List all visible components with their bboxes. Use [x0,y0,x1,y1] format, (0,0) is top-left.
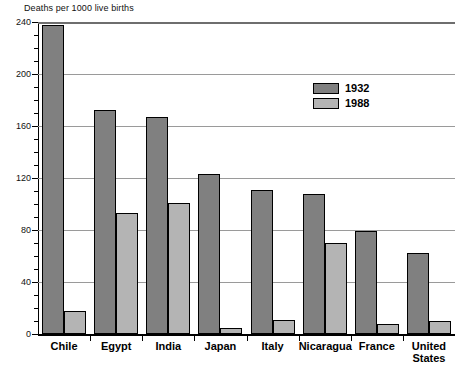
bar-1932 [198,174,220,334]
x-axis-category-label: India [142,340,194,352]
x-axis-category-label: Nicaragua [299,340,351,352]
bar-1988 [325,243,347,334]
bar-group [299,22,351,334]
bar-group [351,22,403,334]
x-axis-category-label: Chile [38,340,90,352]
bar-1988 [220,328,242,335]
bar-1988 [116,213,138,334]
x-axis-category-label: Japan [194,340,246,352]
x-axis-category-label: France [351,340,403,352]
bar-1932 [303,194,325,334]
bar-group [194,22,246,334]
y-axis-major-tick [32,334,38,335]
x-axis-category-label: Egypt [90,340,142,352]
y-axis-tick-label: 40 [3,278,31,287]
bar-group [90,22,142,334]
bar-group [38,22,90,334]
y-axis-tick-label: 200 [3,70,31,79]
legend: 1932 1988 [313,82,369,112]
legend-item-1988: 1988 [313,97,369,110]
bar-1932 [355,231,377,334]
bar-group [247,22,299,334]
y-axis-labels: 240 200 160 120 80 40 0 [0,0,31,371]
bar-group [142,22,194,334]
legend-item-1932: 1932 [313,82,369,95]
bar-1932 [407,253,429,334]
bar-1988 [64,311,86,334]
bar-1932 [94,110,116,334]
bar-1988 [377,324,399,334]
x-axis-category-label: Italy [247,340,299,352]
legend-item-label: 1988 [345,98,369,109]
chart-title: Deaths per 1000 live births [24,3,134,13]
bar-1988 [273,320,295,334]
legend-swatch-icon [313,98,339,109]
bar-1932 [146,117,168,334]
plot-area [38,22,455,334]
legend-item-label: 1932 [345,83,369,94]
bar-1988 [429,321,451,334]
x-axis-category-label: United States [403,340,455,364]
bar-chart: Deaths per 1000 live births 240 200 160 … [0,0,464,371]
legend-swatch-icon [313,83,339,94]
y-axis-tick-label: 160 [3,122,31,131]
y-axis-tick-label: 80 [3,226,31,235]
bar-1988 [168,203,190,334]
bar-1932 [42,25,64,334]
bar-group [403,22,455,334]
bar-1932 [251,190,273,334]
y-axis-tick-label: 120 [3,174,31,183]
y-axis-tick-label: 0 [3,330,31,339]
y-axis-tick-label: 240 [3,18,31,27]
